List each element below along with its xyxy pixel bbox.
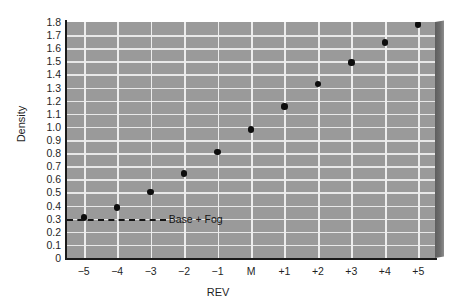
gridline-vertical: [117, 22, 119, 258]
x-axis-title-wrap: REV: [0, 286, 474, 298]
x-axis-title: REV: [207, 286, 230, 298]
data-point: [281, 103, 287, 109]
x-axis-tick-label: +5: [412, 266, 424, 277]
y-axis-tick-label: 1.3: [46, 83, 61, 94]
x-axis-tick-label: −3: [145, 266, 157, 277]
y-axis-tick-label: 0.7: [46, 161, 61, 172]
x-axis-tick-label: +1: [278, 266, 290, 277]
x-axis-tick-label: +4: [379, 266, 391, 277]
x-axis-tick-label: −5: [78, 266, 90, 277]
data-point: [382, 39, 388, 45]
data-point: [415, 22, 421, 28]
gridline-vertical: [318, 22, 320, 258]
x-axis-tick-label: −4: [111, 266, 123, 277]
data-point: [214, 149, 220, 155]
y-axis-tick-label: 1.4: [46, 69, 61, 80]
y-axis-line: [65, 20, 67, 260]
base-plus-fog-line: [67, 219, 166, 221]
gridline-vertical: [151, 22, 153, 258]
y-axis-tick-label: 1.7: [46, 30, 61, 41]
plot-3d-shadow-right: [435, 21, 444, 258]
y-axis-tick-label: 0.8: [46, 148, 61, 159]
y-axis-tick-label: 0.6: [46, 174, 61, 185]
y-axis-tick-label: 1.5: [46, 56, 61, 67]
data-point: [348, 59, 354, 65]
data-point: [114, 204, 120, 210]
y-axis-tick-label: 0.4: [46, 201, 61, 212]
y-axis-tick-label: 0: [55, 253, 61, 264]
gridline-vertical: [84, 22, 86, 258]
y-axis-tick-label: 0.9: [46, 135, 61, 146]
x-axis-tick-label: +3: [345, 266, 357, 277]
y-axis-tick-label: 0.3: [46, 214, 61, 225]
y-axis-tick-labels: 1.81.71.61.51.41.31.21.11.00.90.80.70.60…: [0, 0, 61, 306]
y-axis-tick-label: 1.6: [46, 43, 61, 54]
x-axis-line: [65, 258, 437, 260]
y-axis-tick-label: 1.0: [46, 122, 61, 133]
y-axis-title: Density: [15, 94, 27, 154]
density-rev-chart: Base + Fog 1.81.71.61.51.41.31.21.11.00.…: [0, 0, 474, 306]
x-axis-tick-label: M: [247, 266, 256, 277]
data-point: [181, 170, 187, 176]
x-axis-tick-label: −1: [212, 266, 224, 277]
data-point: [315, 81, 321, 87]
y-axis-tick-label: 0.2: [46, 227, 61, 238]
data-point: [248, 126, 254, 132]
x-axis-tick-label: −2: [178, 266, 190, 277]
gridline-vertical: [385, 22, 387, 258]
plot-area: Base + Fog: [67, 22, 435, 258]
y-axis-tick-label: 1.1: [46, 109, 61, 120]
base-plus-fog-label: Base + Fog: [169, 214, 223, 225]
gridline-vertical: [418, 22, 420, 258]
x-axis-tick-label: +2: [312, 266, 324, 277]
y-axis-tick-label: 1.8: [46, 17, 61, 28]
gridline-vertical: [251, 22, 253, 258]
y-axis-tick-label: 0.1: [46, 240, 61, 251]
y-axis-tick-label: 0.5: [46, 187, 61, 198]
gridline-vertical: [284, 22, 286, 258]
gridline-vertical: [351, 22, 353, 258]
y-axis-tick-label: 1.2: [46, 96, 61, 107]
data-point: [147, 189, 153, 195]
